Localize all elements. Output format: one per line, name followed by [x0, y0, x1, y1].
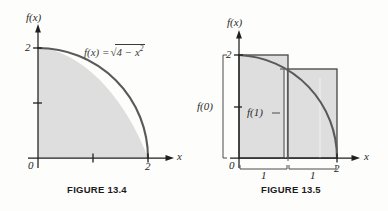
width-label-first: 1 — [261, 170, 267, 181]
y-axis-arrowhead — [35, 24, 41, 33]
y-axis-arrowhead — [236, 30, 242, 39]
figure-13-5-panel: f(x) x 2 0 2 f(0) f(1) 1 1 FIGURE 13.5 — [194, 0, 388, 211]
y-axis-label: f(x) — [227, 17, 242, 28]
height-label-f1: f(1) — [247, 107, 263, 118]
y-axis-label: f(x) — [26, 12, 41, 23]
figure-13-5-plot — [194, 0, 388, 184]
x-axis-arrowhead — [166, 155, 175, 161]
radical-group: √4 − x2 — [109, 44, 144, 58]
figure-13-4-panel: f(x) x 2 0 2 f(x) =√4 − x2 FIGURE 13.4 — [0, 0, 194, 211]
shaded-area-region — [38, 48, 148, 158]
width-label-second: 1 — [310, 170, 316, 181]
figure-13-4-caption: FIGURE 13.4 — [0, 184, 194, 195]
x-axis-arrowhead — [352, 155, 361, 161]
height-label-f0: f(0) — [197, 101, 213, 112]
x-tick-label-2: 2 — [334, 163, 340, 174]
origin-label: 0 — [28, 160, 34, 171]
x-tick-label-2: 2 — [145, 161, 151, 172]
figure-13-5-caption: FIGURE 13.5 — [194, 184, 388, 195]
y-tick-label-2: 2 — [226, 49, 232, 60]
x-axis-label: x — [177, 151, 182, 162]
function-formula: f(x) =√4 − x2 — [84, 44, 145, 58]
radicand-exponent: 2 — [140, 44, 144, 53]
formula-lhs: f(x) = — [84, 46, 109, 58]
y-tick-label-2: 2 — [25, 42, 31, 53]
figure-page: f(x) x 2 0 2 f(x) =√4 − x2 FIGURE 13.4 — [0, 0, 388, 211]
figure-13-4-plot — [0, 0, 194, 184]
f0-measure-bracket — [223, 55, 227, 158]
origin-label: 0 — [229, 160, 235, 171]
riemann-rectangle-second — [288, 69, 337, 158]
radicand-base: 4 − x — [116, 46, 139, 58]
radicand: 4 − x2 — [115, 44, 144, 58]
x-axis-label: x — [364, 151, 369, 162]
